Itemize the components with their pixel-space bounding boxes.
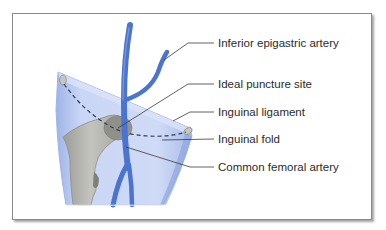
label-inguinal-fold: Inguinal fold xyxy=(218,133,280,146)
leader-inguinal-ligament xyxy=(173,112,214,121)
ligament-marker-left xyxy=(60,75,67,85)
label-common-femoral-artery: Common femoral artery xyxy=(218,161,339,174)
label-inguinal-ligament: Inguinal ligament xyxy=(218,106,305,119)
label-ideal-puncture-site: Ideal puncture site xyxy=(218,78,312,91)
anatomy-illustration xyxy=(0,0,386,230)
label-inferior-epigastric-artery: Inferior epigastric artery xyxy=(218,37,339,50)
leader-inferior-epigastric xyxy=(164,43,214,60)
diagram-canvas: Inferior epigastric artery Ideal punctur… xyxy=(0,0,386,230)
